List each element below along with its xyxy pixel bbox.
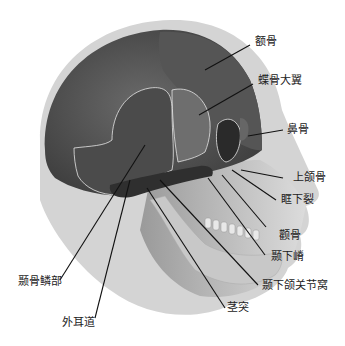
label-nasal: 鼻骨: [287, 124, 309, 136]
label-styloid-process: 茎突: [227, 302, 249, 314]
label-inferior-orbital-fissure: 眶下裂: [281, 194, 314, 206]
label-infratemporal-crest: 颞下嵴: [271, 251, 304, 263]
label-mandibular-fossa: 颞下颌关节窝: [262, 280, 328, 292]
label-frontal: 额骨: [255, 36, 277, 48]
label-sphenoid-greater-wing: 蝶骨大翼: [258, 75, 302, 87]
label-external-acoustic-meatus: 外耳道: [62, 317, 95, 329]
label-maxilla: 上颌骨: [293, 172, 326, 184]
label-squamous-temporal: 颞骨鳞部: [18, 276, 62, 288]
label-zygomatic: 颧骨: [279, 230, 301, 242]
skull-diagram: 额骨 蝶骨大翼 鼻骨 上颌骨 眶下裂 颧骨 颞下嵴 颞下颌关节窝 茎突 颞骨鳞部…: [0, 0, 345, 346]
